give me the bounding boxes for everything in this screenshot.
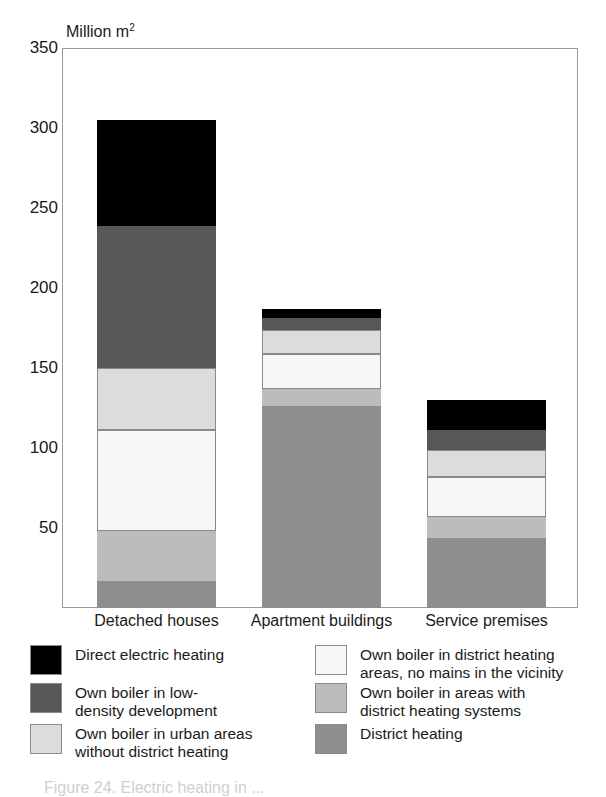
- legend-swatch-icon: [30, 645, 62, 675]
- y-axis-tick-label: 350: [6, 38, 58, 58]
- bar-segment: [97, 430, 216, 531]
- y-axis-title-superscript: 2: [129, 22, 135, 33]
- legend-label: Direct electric heating: [75, 645, 224, 664]
- legend-item[interactable]: Own boiler in district heatingareas, no …: [315, 645, 563, 681]
- legend-label: Own boiler in district heatingareas, no …: [360, 645, 563, 681]
- bar-segment: [97, 120, 216, 226]
- bar-segment: [427, 538, 546, 608]
- y-axis-title-text: Million m: [66, 23, 129, 40]
- bar-segment: [427, 450, 546, 477]
- y-axis-tick-label: 300: [6, 118, 58, 138]
- figure-caption: Figure 24. Electric heating in ...: [44, 779, 265, 797]
- legend-item[interactable]: Own boiler in low-density development: [30, 683, 217, 719]
- bar-detached-houses[interactable]: [97, 48, 216, 608]
- legend-swatch-icon: [30, 724, 62, 754]
- legend-label: Own boiler in low-density development: [75, 683, 217, 719]
- y-axis-tick-label: 200: [6, 278, 58, 298]
- legend-swatch-icon: [30, 683, 62, 713]
- legend-swatch-icon: [315, 683, 347, 713]
- bar-segment: [262, 318, 381, 329]
- legend-swatch-icon: [315, 645, 347, 675]
- bar-segment: [262, 330, 381, 354]
- legend-label: District heating: [360, 724, 463, 743]
- bar-segment: [97, 531, 216, 581]
- y-axis-tick-label: 100: [6, 438, 58, 458]
- bar-segment: [262, 389, 381, 407]
- legend-label: Own boiler in areas withdistrict heating…: [360, 683, 525, 719]
- bar-segment: [262, 354, 381, 389]
- bar-segment: [97, 581, 216, 608]
- legend: Direct electric heatingOwn boiler in low…: [30, 645, 590, 755]
- bar-segment: [97, 226, 216, 368]
- y-axis-tick-label: 250: [6, 198, 58, 218]
- y-axis-title: Million m2: [66, 22, 135, 41]
- bar-service-premises[interactable]: [427, 48, 546, 608]
- bar-segment: [427, 517, 546, 538]
- legend-item[interactable]: Own boiler in areas withdistrict heating…: [315, 683, 525, 719]
- bar-segment: [427, 430, 546, 449]
- legend-item[interactable]: District heating: [315, 724, 463, 754]
- bar-segment: [262, 309, 381, 319]
- bar-segment: [262, 406, 381, 608]
- bar-apartment-buildings[interactable]: [262, 48, 381, 608]
- bar-segment: [97, 368, 216, 430]
- bar-segment: [427, 477, 546, 517]
- legend-item[interactable]: Own boiler in urban areaswithout distric…: [30, 724, 253, 760]
- y-axis-tick-label: 50: [6, 518, 58, 538]
- legend-swatch-icon: [315, 724, 347, 754]
- y-axis-tick-label: 150: [6, 358, 58, 378]
- x-axis-label: Service premises: [387, 612, 587, 630]
- legend-item[interactable]: Direct electric heating: [30, 645, 224, 675]
- bar-segment: [427, 400, 546, 430]
- legend-label: Own boiler in urban areaswithout distric…: [75, 724, 253, 760]
